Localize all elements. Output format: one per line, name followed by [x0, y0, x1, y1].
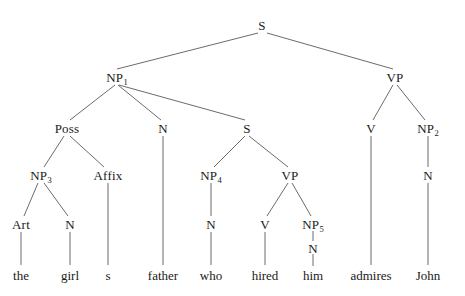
tree-node-vp1: VP	[281, 169, 298, 182]
tree-node-n2: N	[423, 169, 433, 182]
tree-leaf-father: father	[148, 269, 178, 282]
tree-edge-VP1-NP5	[292, 183, 311, 216]
tree-node-art: Art	[12, 218, 30, 231]
tree-node-v0: V	[366, 122, 376, 135]
tree-node-poss: Poss	[55, 122, 80, 135]
tree-leaf-him: him	[303, 269, 323, 282]
tree-edge-NP3-Art	[24, 183, 38, 216]
tree-node-subscript: 2	[435, 128, 439, 138]
tree-edge-S0-NP1	[117, 33, 258, 69]
tree-node-n1: N	[158, 122, 168, 135]
tree-edge-VP1-V1	[267, 183, 288, 216]
tree-node-s1: S	[243, 122, 250, 135]
tree-node-n3: N	[65, 218, 75, 231]
tree-leaf-admires: admires	[350, 269, 391, 282]
tree-node-subscript: 3	[48, 175, 52, 185]
tree-node-np1: NP1	[106, 71, 127, 84]
tree-node-subscript: 4	[218, 175, 222, 185]
tree-leaf-the: the	[13, 269, 29, 282]
tree-leaf-s: s	[105, 269, 110, 282]
tree-edge-S1-NP4	[214, 136, 245, 167]
tree-edges-layer	[0, 0, 465, 296]
tree-node-np5: NP5	[302, 218, 323, 231]
tree-edge-NP3-N3	[44, 183, 68, 216]
tree-leaf-john: John	[416, 269, 441, 282]
tree-leaf-who: who	[200, 269, 222, 282]
tree-edge-S0-VP0	[267, 33, 393, 69]
tree-edge-S1-VP1	[249, 136, 288, 167]
tree-node-affix: Affix	[94, 169, 123, 182]
tree-node-vp0: VP	[386, 71, 403, 84]
tree-edge-NP1-S1	[119, 85, 245, 120]
tree-edge-VP0-NP2	[397, 85, 425, 120]
tree-node-v1: V	[260, 218, 270, 231]
tree-edge-Poss-NP3	[44, 136, 64, 167]
tree-node-subscript: 1	[124, 77, 128, 87]
tree-edge-Poss-Affix	[70, 136, 104, 167]
tree-edge-NP1-Poss	[70, 85, 115, 120]
tree-edge-VP0-V0	[373, 85, 393, 120]
tree-node-n4: N	[206, 218, 216, 231]
tree-node-subscript: 5	[320, 224, 324, 234]
syntax-tree-figure: SNP1VPPossNSVNP2NP3AffixNP4VPNArtNNVNP5N…	[0, 0, 465, 296]
tree-leaf-hired: hired	[252, 269, 279, 282]
tree-node-n5: N	[308, 242, 318, 255]
tree-node-s0: S	[258, 19, 265, 32]
tree-node-np3: NP3	[30, 169, 51, 182]
tree-leaf-girl: girl	[61, 269, 79, 282]
tree-node-np2: NP2	[417, 122, 438, 135]
tree-node-np4: NP4	[200, 169, 221, 182]
